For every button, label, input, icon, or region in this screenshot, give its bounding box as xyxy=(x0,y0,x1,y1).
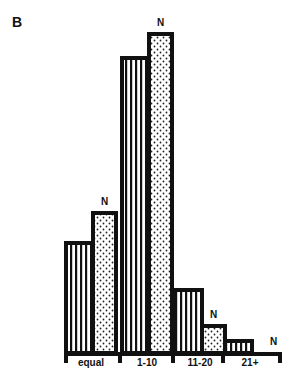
bars-group: NNNN xyxy=(66,17,277,353)
category-label: 11-20 xyxy=(187,357,212,368)
bar-striped xyxy=(122,58,149,353)
axis-tick xyxy=(171,353,175,363)
category-label: 21+ xyxy=(242,357,259,368)
bar-group-11-20: N xyxy=(175,290,225,353)
category-label: equal xyxy=(78,357,104,368)
histogram-chart: NNNN equal1-1011-2021+ xyxy=(0,0,294,388)
n-annotation: N xyxy=(270,336,277,347)
bar-dotted xyxy=(149,34,172,353)
bar-striped xyxy=(175,290,202,353)
bar-dotted xyxy=(202,326,225,353)
bar-group-21+: N xyxy=(225,336,277,353)
n-annotation: N xyxy=(210,309,217,320)
axis-tick xyxy=(221,353,225,363)
bar-striped xyxy=(225,341,252,353)
category-labels: equal1-1011-2021+ xyxy=(78,357,259,368)
bar-group-1-10: N xyxy=(122,17,172,353)
n-annotation: N xyxy=(101,196,108,207)
bar-dotted xyxy=(93,213,116,353)
bar-striped xyxy=(66,243,93,353)
category-label: 1-10 xyxy=(137,357,157,368)
axis-tick xyxy=(64,353,68,363)
axis-tick xyxy=(278,353,282,363)
axis-tick xyxy=(118,353,122,363)
bar-group-equal: N xyxy=(66,196,116,353)
n-annotation: N xyxy=(157,17,164,28)
